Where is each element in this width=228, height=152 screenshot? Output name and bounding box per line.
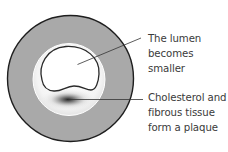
lumen	[41, 46, 99, 91]
plaque-label-line-3: form a plaque	[148, 120, 226, 135]
plaque-label: Cholesterol and fibrous tissue form a pl…	[148, 90, 226, 135]
lumen-label-line-3: smaller	[148, 61, 201, 76]
lumen-label: The lumen becomes smaller	[148, 31, 201, 76]
plaque-label-line-1: Cholesterol and	[148, 90, 226, 105]
lumen-label-line-1: The lumen	[148, 31, 201, 46]
plaque-label-line-2: fibrous tissue	[148, 105, 226, 120]
lumen-label-line-2: becomes	[148, 46, 201, 61]
